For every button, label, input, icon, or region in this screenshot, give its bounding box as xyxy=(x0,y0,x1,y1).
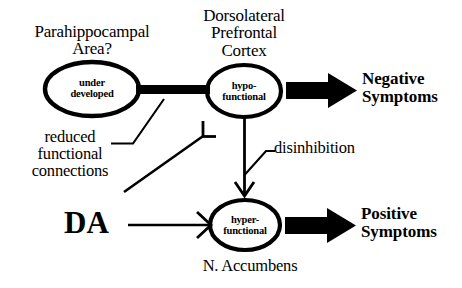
annotation-dopamine: DA xyxy=(64,207,124,238)
connector-inhibitory-to-dlpfc xyxy=(124,121,216,192)
outcome-positive-symptoms: Positive Symptoms xyxy=(361,205,462,241)
outcome-negative-symptoms: Negative Symptoms xyxy=(362,70,462,106)
diagram-canvas: Parahippocampal Area? Dorsolateral Prefr… xyxy=(0,0,462,288)
node-caption-accumbens: N. Accumbens xyxy=(188,258,312,275)
connector-parahippocampal-to-dlpfc xyxy=(136,85,210,94)
connector-accumbens-to-positive-symptoms xyxy=(285,208,356,243)
node-label-under-developed: under developed xyxy=(45,78,139,99)
node-caption-dlpfc: Dorsolateral Prefrontal Cortex xyxy=(186,7,302,59)
annotation-disinhibition: disinhibition xyxy=(274,140,384,157)
connector-da-to-accumbens xyxy=(128,212,211,238)
leader-disinhibition xyxy=(245,151,276,175)
annotation-reduced-functional-connections: reduced functional connections xyxy=(6,129,134,179)
connector-dlpfc-to-negative-symptoms xyxy=(286,73,357,108)
node-caption-parahippocampal: Parahippocampal Area? xyxy=(10,23,174,58)
node-label-hyper-functional: hyper- functional xyxy=(209,215,281,236)
node-label-hypo-functional: hypo- functional xyxy=(208,81,280,102)
connector-dlpfc-to-accumbens xyxy=(235,117,254,196)
